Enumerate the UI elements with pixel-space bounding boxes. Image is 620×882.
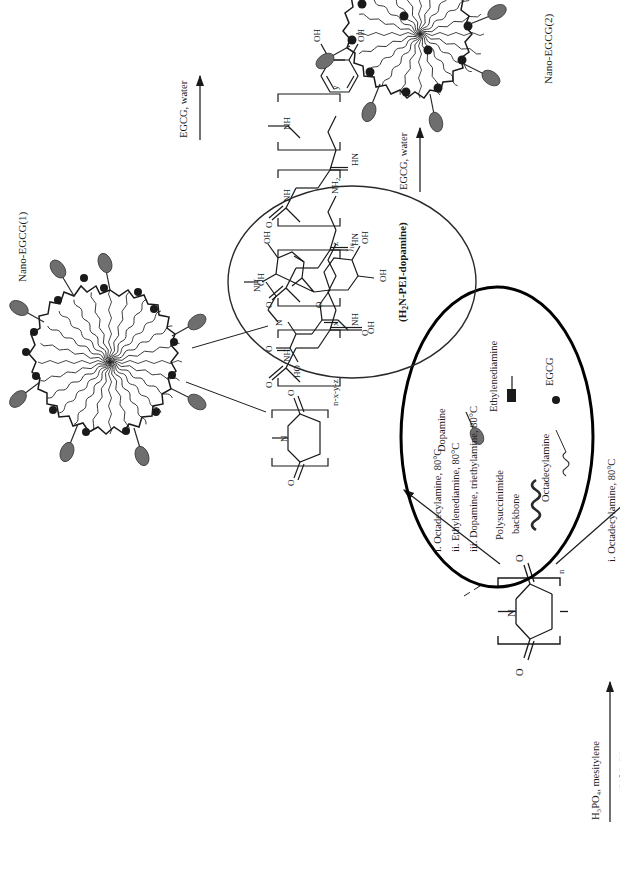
product-label-h2n-pei-dopamine: (H2N-PEI-dopamine)	[396, 222, 410, 322]
legend-glyph-egcg	[552, 396, 560, 404]
assembly-arrow-label-bottom: EGCG, water	[398, 133, 409, 190]
assembly-arrow-label-top: EGCG, water	[178, 81, 189, 138]
nano-egcg-1-illustration	[6, 251, 268, 467]
label-top-repeat1: n-x-y-z	[330, 380, 340, 407]
label-top-repeat2: x	[330, 322, 340, 327]
reaction-scheme-canvas: HO O NH2 O OH H3PO4, mesitylene 150°C, 5…	[0, 0, 620, 882]
legend-glyph-octadecylamine	[556, 430, 569, 476]
nano-egcg-2-illustration	[313, 0, 509, 133]
label-top-repeat4: y	[330, 86, 340, 91]
scheme-artwork	[0, 0, 620, 882]
legend-label-egcg: EGCG	[544, 357, 555, 386]
label-top-hn-b: HN	[350, 153, 360, 166]
inset-label-o-1: O	[264, 346, 274, 353]
label-psi-o-right: O	[514, 554, 525, 562]
legend-label-ethylenediamine: Ethylenediamine	[488, 341, 499, 412]
legend-label-backbone-line2: backbone	[510, 494, 521, 534]
h2n-pei-dopamine-structure	[268, 44, 358, 480]
label-psi-o-left: O	[514, 668, 525, 676]
arrow-condition-reagent: H3PO4, mesitylene	[590, 741, 603, 820]
reagent-bottom-i: i. Octadecylamine, 80°C	[606, 459, 617, 562]
inset-label-oh-d: OH	[378, 269, 388, 282]
label-top-nh-a: NH	[350, 313, 360, 326]
nano-egcg-2-label: Nano-EGCG(2)	[542, 14, 554, 84]
inset-label-oh-e: OH	[366, 321, 376, 334]
label-top-repeat3: z	[330, 242, 340, 246]
label-top-nh-d: NH	[282, 117, 292, 130]
label-psi-n: N	[506, 609, 517, 617]
inset-label-oh-b: OH	[262, 231, 272, 244]
label-top-o5: O	[264, 222, 274, 229]
inset-label-o-3: O	[314, 302, 324, 309]
inset-label-oh-a: OH	[256, 273, 266, 286]
reagent-top-i: i. Octadecylamine, 80°C	[432, 449, 443, 552]
legend-glyph-ethylenediamine	[507, 376, 516, 402]
legend-label-dopamine: Dopamine	[436, 408, 447, 452]
label-top-o1: O	[286, 480, 296, 487]
label-top-nh-b: NH	[282, 349, 292, 362]
inset-label-ho-1: HO	[292, 365, 302, 378]
legend-oval	[401, 287, 593, 587]
legend-glyph-backbone	[532, 480, 540, 530]
label-top-o3: O	[264, 382, 274, 389]
inset-label-oh-c: OH	[360, 231, 370, 244]
legend-label-octadecylamine: Octadecylamine	[540, 434, 551, 502]
inset-label-n: N	[274, 320, 284, 327]
nano-egcg-1-label: Nano-EGCG(1)	[16, 212, 28, 282]
label-top-o4: O	[264, 302, 274, 309]
label-top-oh-1: OH	[312, 29, 322, 42]
label-psi-repeat: n	[556, 570, 566, 575]
label-top-nh-c: NH	[282, 189, 292, 202]
label-top-hn-a: HN	[350, 233, 360, 246]
reagent-top-iii: iii. Dopamine, triethylamine, 80°C	[468, 406, 479, 552]
reagent-top-ii: ii. Ethylenediamine, 80°C	[450, 443, 461, 552]
label-top-n: N	[279, 436, 289, 443]
label-top-o2: O	[286, 390, 296, 397]
label-top-nh2: NH2	[330, 178, 341, 194]
label-top-oh-2: OH	[356, 29, 366, 42]
legend-label-backbone-line1: Polysuccinimide	[494, 470, 505, 540]
